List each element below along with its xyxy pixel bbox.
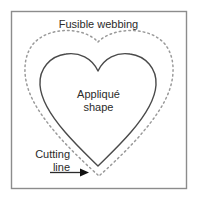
label-cutting-line: Cutting line [12,148,70,173]
figure-fusible-webbing-applique: Fusible webbing Appliqué shape Cutting l… [0,0,197,201]
label-fusible-webbing: Fusible webbing [0,18,197,31]
label-applique-shape: Appliqué shape [0,88,197,113]
